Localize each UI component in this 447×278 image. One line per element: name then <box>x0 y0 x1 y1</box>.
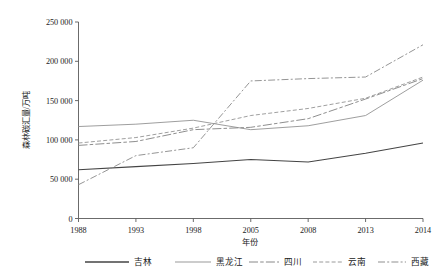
legend-label-1[interactable]: 黑龙江 <box>216 256 243 267</box>
x-tick-label: 2013 <box>357 226 373 235</box>
chart-figure: 050 000100 000150 000200 000250 000 1988… <box>0 0 447 278</box>
y-tick-label: 150 000 <box>46 97 73 106</box>
chart-legend: 吉林黑龙江四川云南西藏 <box>85 256 429 267</box>
x-tick-label: 1998 <box>185 226 201 235</box>
x-tick-labels: 1988199319982005200820132014 <box>70 226 431 235</box>
x-tick-label: 2014 <box>415 226 431 235</box>
y-tick-label: 100 000 <box>46 136 73 145</box>
series-line-0 <box>79 143 424 170</box>
x-tick-label: 2008 <box>300 226 316 235</box>
y-tick-label: 200 000 <box>46 57 73 66</box>
y-axis-title: 森林碳汇量/万吨 <box>21 91 31 149</box>
series-lines <box>79 45 424 185</box>
y-tick-label: 250 000 <box>46 18 73 27</box>
y-tick-label: 50 000 <box>50 175 73 184</box>
y-tick-label: 0 <box>68 215 72 224</box>
legend-label-0[interactable]: 吉林 <box>134 256 152 267</box>
legend-label-4[interactable]: 西藏 <box>411 256 429 267</box>
chart-axes <box>79 22 424 219</box>
line-chart: 050 000100 000150 000200 000250 000 1988… <box>0 0 447 278</box>
series-line-1 <box>79 80 424 130</box>
y-tick-labels: 050 000100 000150 000200 000250 000 <box>46 18 73 224</box>
series-line-4 <box>79 45 424 185</box>
x-axis-title: 年份 <box>242 237 258 247</box>
x-tick-label: 1988 <box>70 226 86 235</box>
y-tick-marks <box>75 22 79 219</box>
legend-label-2[interactable]: 四川 <box>284 257 302 267</box>
x-tick-label: 1993 <box>128 226 144 235</box>
x-tick-marks <box>79 219 424 223</box>
legend-label-3[interactable]: 云南 <box>348 256 366 267</box>
x-tick-label: 2005 <box>243 226 259 235</box>
series-line-3 <box>79 77 424 143</box>
